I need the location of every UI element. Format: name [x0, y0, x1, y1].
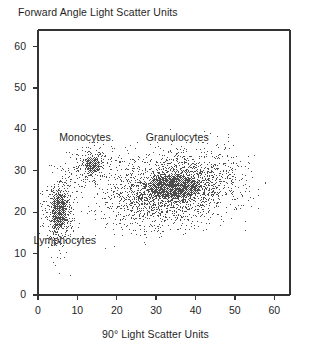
x-tick-label-30: 30 [144, 304, 168, 316]
x-tick-label-0: 0 [26, 304, 50, 316]
data-points-layer [39, 129, 266, 276]
y-tick-label-50: 50 [4, 81, 26, 93]
x-tick-label-20: 20 [105, 304, 129, 316]
cluster-label-lymphocytes: Lymphocytes [34, 234, 97, 246]
plot-canvas [0, 0, 311, 351]
x-tick-label-10: 10 [65, 304, 89, 316]
y-tick-label-40: 40 [4, 122, 26, 134]
x-tick-label-60: 60 [262, 304, 286, 316]
y-tick-label-10: 10 [4, 247, 26, 259]
y-tick-label-0: 0 [4, 288, 26, 300]
y-tick-label-20: 20 [4, 205, 26, 217]
x-tick-label-40: 40 [184, 304, 208, 316]
x-axis-title: 90° Light Scatter Units [0, 328, 311, 340]
cluster-label-granulocytes: Granulocytes [146, 131, 209, 143]
y-tick-label-30: 30 [4, 164, 26, 176]
x-tick-label-50: 50 [223, 304, 247, 316]
cluster-label-monocytes: Monocytes [59, 131, 111, 143]
y-tick-label-60: 60 [4, 40, 26, 52]
scatter-plot-figure: Forward Angle Light Scatter Units 010203… [0, 0, 311, 351]
